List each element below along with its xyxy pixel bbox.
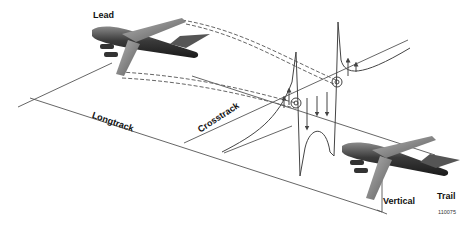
lead-label: Lead <box>93 10 114 20</box>
vertical-label: Vertical <box>383 196 415 206</box>
longtrack-dimension-line <box>30 98 382 212</box>
formation-vortex-diagram: Lead Longtrack Crosstrack Vertical Trail… <box>0 0 474 228</box>
diagram-canvas <box>0 0 474 228</box>
trail-label: Trail <box>437 191 456 201</box>
figure-id-label: 110075 <box>438 209 456 215</box>
lead-aircraft <box>92 18 210 76</box>
left-edge-line <box>18 63 112 107</box>
